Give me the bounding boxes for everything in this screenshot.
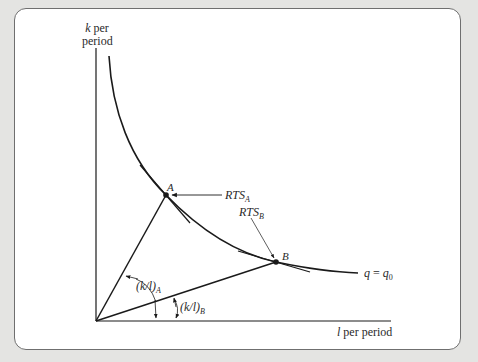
rts-a-text: RTS	[225, 188, 245, 202]
ratio-a-subscript: A	[156, 286, 161, 295]
curve-label: q = q0	[364, 267, 393, 284]
y-axis-per: per	[91, 21, 109, 35]
point-a-label: A	[167, 181, 174, 194]
ratio-a-label: (k/l)A	[136, 280, 161, 297]
point-b-label: B	[282, 250, 289, 263]
point-b	[273, 259, 279, 265]
ratio-a-text: (k/l)	[136, 279, 156, 293]
y-axis-label: k per period	[82, 22, 112, 48]
y-axis-period: period	[82, 34, 113, 48]
rts-a-label: RTSA	[225, 189, 250, 206]
rts-b-arrow	[251, 218, 274, 258]
x-axis-label: l per period	[337, 326, 392, 339]
ratio-b-text: (k/l)	[180, 300, 200, 314]
curve-label-eq: =	[370, 266, 383, 280]
x-axis-per-period: per period	[340, 325, 392, 339]
ratio-b-subscript: B	[200, 307, 205, 316]
rts-b-label: RTSB	[239, 206, 264, 223]
angle-a-arc-arrow	[155, 300, 156, 318]
ratio-b-label: (k/l)B	[180, 301, 205, 318]
rts-b-subscript: B	[259, 212, 264, 221]
rts-a-subscript: A	[245, 195, 250, 204]
isoquant-curve	[109, 56, 358, 273]
isoquant-diagram	[0, 0, 478, 362]
curve-label-sub: 0	[389, 273, 393, 282]
rts-b-text: RTS	[239, 205, 259, 219]
